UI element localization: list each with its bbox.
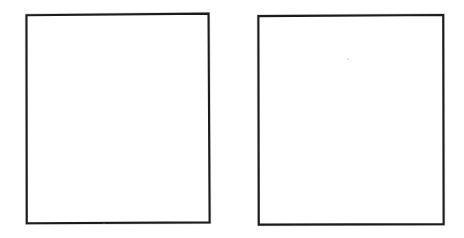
page-canvas bbox=[0, 0, 464, 238]
scan-speck bbox=[347, 58, 349, 60]
scan-speck bbox=[104, 224, 105, 225]
scan-speck bbox=[350, 60, 351, 61]
left-frame-outline[interactable] bbox=[27, 14, 210, 224]
right-frame-outline[interactable] bbox=[258, 15, 443, 225]
left-blank-frame-group[interactable] bbox=[27, 14, 210, 224]
scan-speck bbox=[294, 226, 295, 227]
right-blank-frame-group[interactable] bbox=[258, 15, 443, 225]
drawing-surface bbox=[0, 0, 464, 238]
